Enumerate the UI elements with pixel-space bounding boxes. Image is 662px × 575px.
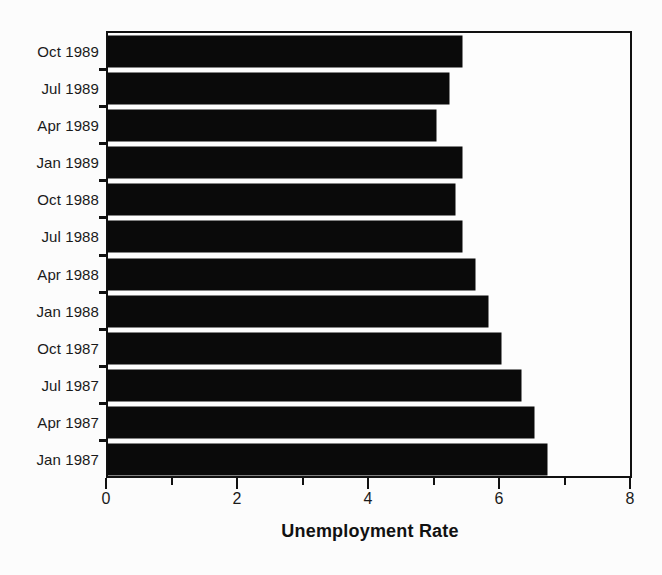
y-axis-label-oct-1987: Oct 1987 <box>0 333 103 364</box>
x-axis-minor-tick <box>171 478 173 485</box>
y-axis-label-apr-1988: Apr 1988 <box>0 259 103 290</box>
bar-fill <box>108 221 462 252</box>
y-axis-tick <box>99 105 108 108</box>
y-axis-tick <box>99 142 108 145</box>
y-axis-label-jul-1988: Jul 1988 <box>0 221 103 252</box>
y-axis-label-oct-1989: Oct 1989 <box>0 36 103 67</box>
x-axis-title-text: Unemployment Rate <box>281 521 458 542</box>
bar-jan-1988 <box>108 296 488 327</box>
bar-apr-1987 <box>108 407 534 438</box>
y-axis-label-jul-1987: Jul 1987 <box>0 370 103 401</box>
x-axis-tick-label-4: 4 <box>364 490 373 508</box>
bar-fill <box>108 333 501 364</box>
y-axis-label-apr-1989: Apr 1989 <box>0 110 103 141</box>
bar-jul-1989 <box>108 73 449 104</box>
bars-layer <box>108 33 632 478</box>
x-axis-tick-label-0: 0 <box>102 490 111 508</box>
x-axis-tick-label-6: 6 <box>495 490 504 508</box>
y-axis-category-labels: Oct 1989Jul 1989Apr 1989Jan 1989Oct 1988… <box>0 33 103 478</box>
bar-fill <box>108 110 436 141</box>
y-axis-label-jan-1989: Jan 1989 <box>0 147 103 178</box>
y-axis-tick <box>99 365 108 368</box>
x-axis-major-tick <box>236 478 238 489</box>
bar-fill <box>108 184 455 215</box>
bar-oct-1988 <box>108 184 455 215</box>
bar-fill <box>108 147 462 178</box>
bar-jan-1989 <box>108 147 462 178</box>
x-axis-minor-tick <box>302 478 304 485</box>
bar-fill <box>108 259 475 290</box>
bar-apr-1989 <box>108 110 436 141</box>
x-axis-major-tick <box>498 478 500 489</box>
y-axis-tick <box>99 291 108 294</box>
x-axis-major-tick <box>105 478 107 489</box>
y-axis-label-jan-1987: Jan 1987 <box>0 444 103 475</box>
bar-jul-1988 <box>108 221 462 252</box>
x-axis-title: Unemployment Rate <box>0 521 662 542</box>
y-axis-tick <box>99 179 108 182</box>
bar-apr-1988 <box>108 259 475 290</box>
x-axis-major-tick <box>367 478 369 489</box>
bar-fill <box>108 296 488 327</box>
bar-fill <box>108 73 449 104</box>
x-axis-tick-label-8: 8 <box>626 490 635 508</box>
chart-screenshot: Oct 1989Jul 1989Apr 1989Jan 1989Oct 1988… <box>0 0 662 575</box>
y-axis-tick <box>99 402 108 405</box>
bar-oct-1987 <box>108 333 501 364</box>
y-axis-tick <box>99 439 108 442</box>
y-axis-tick <box>99 216 108 219</box>
bar-jul-1987 <box>108 370 521 401</box>
bar-fill <box>108 36 462 67</box>
x-axis-minor-tick <box>564 478 566 485</box>
bar-fill <box>108 407 534 438</box>
bar-fill <box>108 444 547 475</box>
x-axis-minor-tick <box>433 478 435 485</box>
y-axis-label-jul-1989: Jul 1989 <box>0 73 103 104</box>
y-axis-tick <box>99 68 108 71</box>
y-axis-label-apr-1987: Apr 1987 <box>0 407 103 438</box>
y-axis-label-jan-1988: Jan 1988 <box>0 296 103 327</box>
bar-oct-1989 <box>108 36 462 67</box>
x-axis-major-tick <box>629 478 631 489</box>
y-axis-tick <box>99 254 108 257</box>
bar-fill <box>108 370 521 401</box>
x-axis-tick-label-2: 2 <box>233 490 242 508</box>
y-axis-tick <box>99 328 108 331</box>
y-axis-label-oct-1988: Oct 1988 <box>0 184 103 215</box>
bar-jan-1987 <box>108 444 547 475</box>
